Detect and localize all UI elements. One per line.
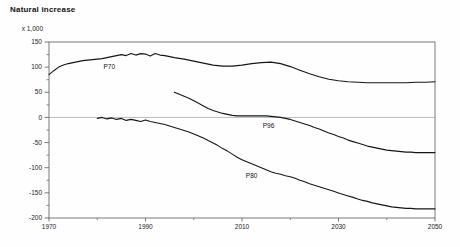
y-axis-tick-label: -50 — [33, 139, 43, 146]
y-axis-tick-label: -100 — [29, 164, 42, 171]
x-axis-tick-label: 2050 — [428, 223, 443, 230]
x-axis-tick-label: 2010 — [235, 223, 250, 230]
series-line-p80 — [97, 117, 435, 208]
y-axis-tick-label: -200 — [29, 214, 42, 221]
series-label-p96: P96 — [263, 122, 275, 129]
y-axis-tick-label: 50 — [35, 88, 43, 95]
y-axis-tick-label: 150 — [31, 38, 42, 45]
y-axis-tick-label: 100 — [31, 63, 42, 70]
series-label-p70: P70 — [104, 63, 116, 70]
x-axis-tick-label: 2030 — [331, 223, 346, 230]
y-axis-tick-label: -150 — [29, 189, 42, 196]
x-axis-tick-label: 1970 — [42, 223, 57, 230]
x-axis-tick-label: 1990 — [138, 223, 153, 230]
line-chart: 150100500-50-100-150-2001970199020102030… — [0, 0, 460, 247]
y-axis-tick-label: 0 — [38, 114, 42, 121]
chart-window: Natural increase x 1,000 150100500-50-10… — [0, 0, 460, 247]
series-label-p80: P80 — [246, 172, 258, 179]
